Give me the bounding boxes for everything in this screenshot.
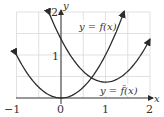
y-tick-1: 1	[52, 50, 59, 63]
x-tick-2: 2	[146, 103, 153, 116]
x-tick-0: 0	[57, 103, 64, 116]
chart: x y −1 0 1 2 1 2 y = f(x) y = f̄(x)	[0, 0, 164, 117]
label-fbar: y = f̄(x)	[99, 85, 138, 96]
x-tick-1: 1	[102, 103, 109, 116]
y-axis-label: y	[62, 0, 69, 11]
y-tick-2: 2	[51, 6, 58, 19]
label-f: y = f(x)	[78, 21, 117, 32]
x-tick-neg1: −1	[4, 103, 20, 116]
x-axis-label: x	[154, 93, 160, 104]
